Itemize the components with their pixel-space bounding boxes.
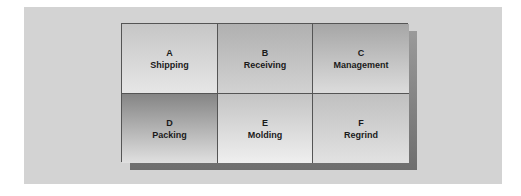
department-name: Packing	[152, 129, 187, 141]
department-letter: A	[166, 47, 173, 59]
department-letter: C	[358, 47, 365, 59]
department-letter: E	[262, 117, 268, 129]
department-name: Molding	[248, 129, 283, 141]
department-cell-b: B Receiving	[218, 24, 313, 94]
department-letter: B	[262, 47, 269, 59]
department-layout-grid: A Shipping B Receiving C Management D Pa…	[121, 23, 408, 162]
department-letter: F	[358, 117, 364, 129]
department-cell-e: E Molding	[218, 94, 313, 163]
department-cell-c: C Management	[313, 24, 409, 94]
department-name: Regrind	[344, 129, 378, 141]
department-cell-d: D Packing	[122, 94, 218, 163]
department-cell-f: F Regrind	[313, 94, 409, 163]
department-cell-a: A Shipping	[122, 24, 218, 94]
department-name: Receiving	[244, 59, 287, 71]
department-letter: D	[166, 117, 173, 129]
department-name: Management	[333, 59, 388, 71]
department-name: Shipping	[150, 59, 189, 71]
